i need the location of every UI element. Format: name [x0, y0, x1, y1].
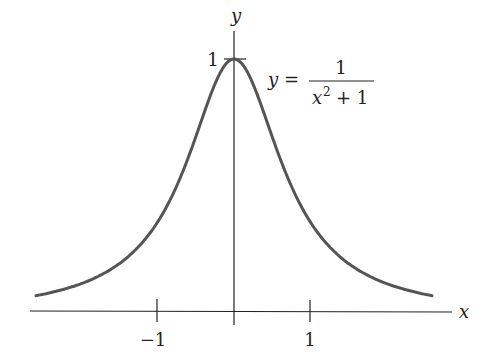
annotation-denominator-exp: 2	[323, 85, 331, 99]
x-axis	[30, 311, 452, 312]
chart-plot: y x −1 1 1 y = 1 x 2 + 1	[0, 0, 491, 361]
y-axis-label: y	[230, 5, 242, 26]
annotation-denominator-rest: + 1	[336, 87, 368, 108]
annotation-numerator: 1	[335, 57, 346, 78]
x-tick-label-minus-1: −1	[140, 329, 167, 350]
x-axis-label: x	[459, 301, 469, 322]
y-tick-label-1: 1	[207, 49, 218, 70]
annotation-denominator-base: x	[312, 87, 322, 108]
function-annotation: y = 1 x 2 + 1	[267, 57, 374, 108]
annotation-lhs: y =	[267, 69, 299, 90]
x-tick-label-1: 1	[304, 329, 315, 350]
